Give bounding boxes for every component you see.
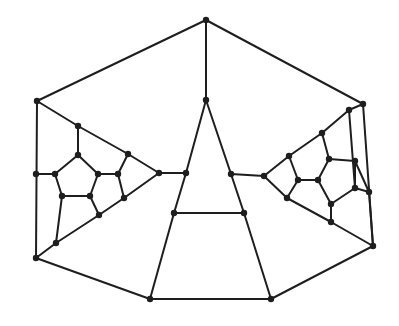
graph-edge — [174, 173, 186, 213]
graph-edge — [289, 133, 322, 156]
graph-edge — [289, 156, 298, 180]
graph-node-l9 — [87, 193, 93, 199]
graph-edge — [329, 159, 355, 161]
graph-edge — [322, 110, 349, 133]
graph-node-r10 — [328, 201, 334, 207]
graph-node-l10 — [121, 195, 127, 201]
graph-node-l11 — [96, 212, 102, 218]
graph-edge — [99, 198, 124, 215]
graph-edge — [124, 173, 159, 198]
graph-edge — [369, 192, 373, 246]
graph-edge — [206, 100, 231, 174]
graph-edge — [271, 246, 373, 299]
graph-node-r3 — [346, 107, 352, 113]
graph-edge — [318, 159, 329, 180]
graph-node-l4 — [33, 171, 39, 177]
graph-edge — [128, 154, 159, 173]
graph-node-r8 — [352, 185, 358, 191]
graph-node-rt — [360, 101, 366, 107]
graph-edge — [244, 213, 271, 299]
graph-edge — [331, 222, 373, 246]
graph-edge — [322, 133, 329, 159]
graph-node-a1 — [183, 170, 189, 176]
graph-node-l6 — [95, 171, 101, 177]
graph-edge — [37, 20, 206, 101]
graph-node-rb — [370, 243, 376, 249]
graph-node-r2 — [319, 130, 325, 136]
graph-node-lb — [33, 255, 39, 261]
graph-node-r7 — [352, 158, 358, 164]
graph-node-r6 — [326, 156, 332, 162]
graph-node-r5 — [315, 177, 321, 183]
graph-edge — [264, 156, 289, 176]
graph-diagram — [0, 0, 399, 326]
graph-edge — [206, 20, 363, 104]
graph-node-r1 — [286, 153, 292, 159]
graph-node-r9 — [366, 189, 372, 195]
graph-edge — [287, 198, 331, 222]
graph-node-a4 — [241, 210, 247, 216]
graph-edge — [150, 213, 174, 299]
graph-node-r12 — [284, 195, 290, 201]
graph-edge — [37, 101, 78, 126]
graph-node-t — [203, 17, 209, 23]
graph-node-ltip — [156, 170, 162, 176]
graph-node-l3 — [75, 152, 81, 158]
graph-node-l1 — [75, 123, 81, 129]
graph-edge — [78, 155, 98, 174]
graph-node-l2 — [125, 151, 131, 157]
graph-node-a0 — [203, 97, 209, 103]
graph-edge — [55, 174, 62, 196]
graph-edge — [186, 100, 206, 173]
graph-edge — [231, 174, 244, 213]
graph-node-l5 — [52, 171, 58, 177]
graph-node-r4 — [295, 177, 301, 183]
graph-edge — [36, 101, 37, 258]
graph-edge — [78, 126, 128, 154]
graph-edge — [55, 155, 78, 174]
graph-edge — [36, 243, 56, 258]
graph-node-l12 — [53, 240, 59, 246]
graph-edge — [264, 176, 287, 198]
graph-node-br — [268, 296, 274, 302]
graph-edge — [118, 174, 124, 198]
graph-edge — [318, 180, 331, 204]
graph-edge — [36, 258, 150, 299]
graph-node-a2 — [228, 171, 234, 177]
graph-node-lt — [34, 98, 40, 104]
graph-edge — [90, 174, 98, 196]
graph-node-a3 — [171, 210, 177, 216]
graph-edge — [331, 188, 355, 204]
graph-node-l7 — [115, 171, 121, 177]
graph-edge — [56, 215, 99, 243]
graph-edge — [231, 174, 264, 176]
graph-nodes — [33, 17, 376, 302]
graph-node-rtip — [261, 173, 267, 179]
graph-edges — [36, 20, 373, 299]
graph-node-bl — [147, 296, 153, 302]
graph-node-l8 — [59, 193, 65, 199]
graph-edge — [118, 154, 128, 174]
graph-edge — [56, 196, 62, 243]
graph-node-r11 — [328, 219, 334, 225]
